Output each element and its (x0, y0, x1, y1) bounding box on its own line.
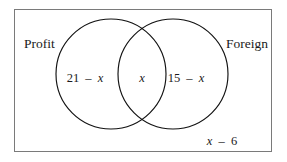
right-only-region-label: 15 – x (168, 71, 205, 85)
right-only-variable: x (198, 71, 205, 85)
outside-operator: – (218, 134, 226, 148)
right-only-prefix: 15 (168, 71, 181, 85)
outside-suffix: 6 (231, 134, 237, 148)
intersection-region-label: x (138, 71, 145, 85)
outside-region-label: x – 6 (206, 134, 237, 148)
left-only-operator: – (84, 71, 92, 85)
right-only-operator: – (185, 71, 193, 85)
venn-diagram-figure: Profit Foreign 21 – x x 15 – x x – 6 (0, 0, 287, 162)
venn-diagram-canvas: Profit Foreign 21 – x x 15 – x x – 6 (0, 0, 287, 162)
left-only-region-label: 21 – x (67, 71, 104, 85)
outside-variable: x (206, 134, 213, 148)
right-set-label: Foreign (226, 36, 268, 51)
left-set-label: Profit (24, 36, 55, 51)
left-only-variable: x (97, 71, 104, 85)
left-only-prefix: 21 (67, 71, 80, 85)
